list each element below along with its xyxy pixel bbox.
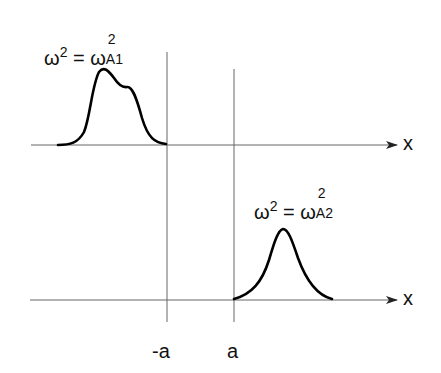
exponent: 2	[108, 31, 116, 47]
equals-sign: =	[283, 201, 295, 223]
omega-symbol: ω	[300, 201, 316, 223]
exponent: 2	[60, 44, 68, 60]
mode-curve-a2	[234, 229, 332, 299]
marker-label-minus-a: -a	[152, 340, 170, 363]
subscript: A2	[316, 205, 333, 221]
equals-sign: =	[73, 47, 85, 69]
exponent: 2	[318, 185, 326, 201]
omega-symbol: ω	[90, 47, 106, 69]
marker-label-a: a	[227, 340, 238, 363]
omega-symbol: ω	[44, 47, 60, 69]
subscript: A1	[106, 51, 123, 67]
exponent: 2	[270, 198, 278, 214]
top-axis-label: x	[403, 132, 413, 155]
equation-omega-a2: ω2 = ω2A2	[254, 198, 340, 224]
omega-symbol: ω	[254, 201, 270, 223]
mode-curve-a1	[58, 69, 166, 145]
equation-omega-a1: ω2 = ω2A1	[44, 44, 130, 70]
bottom-axis-label: x	[403, 287, 413, 310]
